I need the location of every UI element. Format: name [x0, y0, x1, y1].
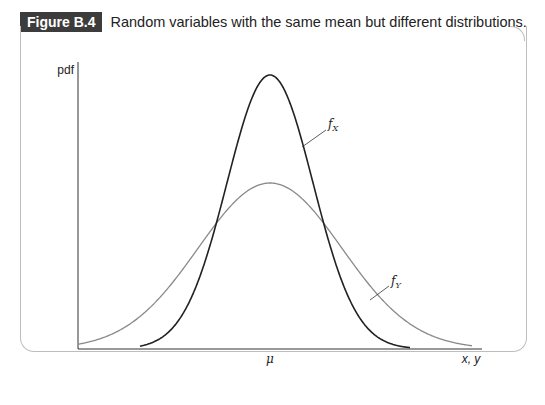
fy-label: fY: [390, 274, 401, 290]
y-axis-label: pdf: [57, 63, 74, 77]
fx-curve: [140, 75, 410, 348]
x-axis-label: x, y: [461, 352, 482, 366]
fx-label: fX: [327, 117, 338, 133]
density-chart: pdf μ x, y fX fY: [0, 0, 545, 405]
mu-tick-label: μ: [266, 352, 274, 366]
fx-leader-line: [302, 130, 326, 147]
fy-curve: [78, 183, 472, 346]
fy-leader-line: [370, 286, 389, 300]
